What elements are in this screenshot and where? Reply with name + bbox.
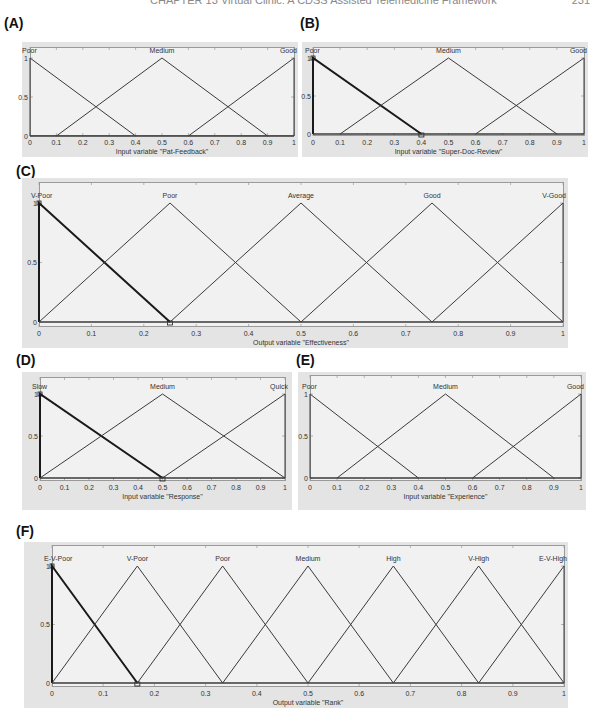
x-tick-label: 0.9 bbox=[508, 690, 518, 697]
x-axis-label: Output variable "Rank" bbox=[273, 699, 344, 707]
mf-curve-poor bbox=[137, 566, 308, 683]
mf-curve-medium bbox=[223, 566, 394, 683]
mf-label: Poor bbox=[215, 555, 230, 562]
mf-curve-high bbox=[308, 566, 479, 683]
x-tick-label: 0.8 bbox=[457, 690, 467, 697]
mf-label: High bbox=[386, 555, 401, 563]
x-tick-label: 0.6 bbox=[354, 690, 364, 697]
x-tick-label: 0.2 bbox=[150, 690, 160, 697]
mf-label: Medium bbox=[296, 555, 321, 562]
mf-label: E-V-High bbox=[539, 555, 567, 563]
x-tick-label: 1 bbox=[562, 690, 566, 697]
mf-curve-v-high bbox=[393, 566, 564, 683]
x-tick-label: 0.3 bbox=[201, 690, 211, 697]
y-tick-label: 1 bbox=[46, 563, 50, 570]
x-tick-label: 0.1 bbox=[98, 690, 108, 697]
mf-plot-f: 00.10.20.30.40.50.60.70.80.9100.51Output… bbox=[0, 0, 600, 710]
mf-label: E-V-Poor bbox=[44, 555, 73, 562]
x-tick-label: 0.5 bbox=[303, 690, 313, 697]
y-tick-label: 0.5 bbox=[40, 621, 50, 628]
mf-curve-v-poor bbox=[52, 566, 223, 683]
x-tick-label: 0.7 bbox=[406, 690, 416, 697]
mf-label: V-Poor bbox=[127, 555, 149, 562]
y-tick-label: 0 bbox=[46, 680, 50, 687]
x-tick-label: 0.4 bbox=[252, 690, 262, 697]
x-tick-label: 0 bbox=[50, 690, 54, 697]
mf-label: V-High bbox=[468, 555, 489, 563]
